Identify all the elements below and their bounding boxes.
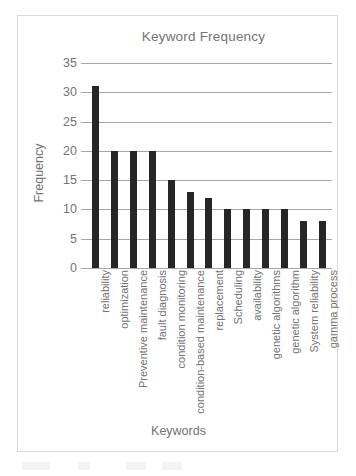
x-label-slot: genetic algorithm <box>275 270 294 430</box>
x-label-slot: condition monitoring <box>162 270 181 430</box>
plot-area: 05101520253035 <box>86 63 332 268</box>
bar[interactable] <box>281 209 288 268</box>
x-label-slot: condition-based maintenance <box>181 270 200 430</box>
bar-slot <box>200 63 219 268</box>
bar-slot <box>124 63 143 268</box>
bar[interactable] <box>168 180 175 268</box>
bar-slot <box>237 63 256 268</box>
y-tick-label: 5 <box>70 232 77 246</box>
y-tick-mark <box>81 268 86 269</box>
x-label-slot: System reliability <box>294 270 313 430</box>
x-label-slot: reliability <box>86 270 105 430</box>
bar-slot <box>256 63 275 268</box>
x-label-slot: Scheduling <box>218 270 237 430</box>
y-tick-label: 30 <box>63 85 77 99</box>
gridline <box>86 268 332 269</box>
bar-slot <box>294 63 313 268</box>
y-tick-label: 20 <box>63 144 77 158</box>
x-axis-label: gamma process <box>328 270 339 348</box>
bar[interactable] <box>243 209 250 268</box>
bar-slot <box>181 63 200 268</box>
x-label-slot: gamma process <box>313 270 332 430</box>
bar-slot <box>313 63 332 268</box>
bar-slot <box>86 63 105 268</box>
y-tick-label: 15 <box>63 173 77 187</box>
bar[interactable] <box>224 209 231 268</box>
bar-slot <box>162 63 181 268</box>
x-label-slot: fault diagnosis <box>143 270 162 430</box>
chart-title: Keyword Frequency <box>18 29 339 44</box>
y-tick-label: 10 <box>63 202 77 216</box>
x-label-slot: availability <box>237 270 256 430</box>
bar[interactable] <box>205 198 212 268</box>
y-tick-label: 35 <box>63 56 77 70</box>
bar[interactable] <box>300 221 307 268</box>
caption-artifact <box>22 462 222 470</box>
x-axis-category-labels: reliabilityoptimizationPreventive mainte… <box>86 270 332 430</box>
bar-slot <box>218 63 237 268</box>
bar[interactable] <box>130 151 137 268</box>
x-label-slot: Preventive maintenance <box>124 270 143 430</box>
x-label-slot: optimization <box>105 270 124 430</box>
x-axis-title: Keywords <box>18 424 339 438</box>
bar-slot <box>105 63 124 268</box>
y-axis-title: Frequency <box>32 128 46 218</box>
bar[interactable] <box>262 209 269 268</box>
y-tick-label: 0 <box>70 261 77 275</box>
x-label-slot: replacement <box>200 270 219 430</box>
bar-series <box>86 63 332 268</box>
bar[interactable] <box>111 151 118 268</box>
bar[interactable] <box>187 192 194 268</box>
y-tick-label: 25 <box>63 115 77 129</box>
bar-slot <box>143 63 162 268</box>
bar[interactable] <box>319 221 326 268</box>
chart-frame: Keyword Frequency Frequency 051015202530… <box>17 15 338 452</box>
bar-slot <box>275 63 294 268</box>
x-label-slot: genetic algorithms <box>256 270 275 430</box>
bar[interactable] <box>92 86 99 268</box>
bar[interactable] <box>149 151 156 268</box>
